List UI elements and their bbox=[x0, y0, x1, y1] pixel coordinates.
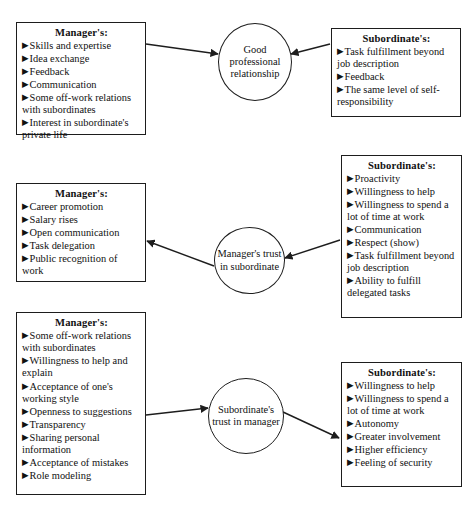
subordinates-trust-in-manager-node: Subordinate's trust in manager bbox=[208, 378, 284, 454]
list-item: ▶Proactivity bbox=[347, 172, 457, 185]
list-item: ▶Open communication bbox=[22, 226, 141, 239]
ellipse-label: Manager's trust in subordinate bbox=[215, 248, 284, 272]
list-item: ▶Ability to fulfill delegated tasks bbox=[347, 274, 457, 299]
list-item-label: Acceptance of mistakes bbox=[30, 457, 129, 468]
box-heading: Subordinate's: bbox=[337, 32, 456, 45]
list-item: ▶Task fulfillment beyond job description bbox=[337, 45, 456, 70]
list-item-label: Idea exchange bbox=[30, 52, 90, 63]
list-item-label: Higher efficiency bbox=[355, 444, 428, 455]
triangle-bullet-icon: ▶ bbox=[22, 92, 29, 102]
triangle-bullet-icon: ▶ bbox=[22, 214, 29, 224]
list-item: ▶The same level of self-responsibility bbox=[337, 83, 456, 108]
list-item: ▶Role modeling bbox=[22, 469, 141, 482]
list-item-label: Task delegation bbox=[30, 239, 95, 250]
list-item-label: Respect (show) bbox=[355, 237, 419, 248]
triangle-bullet-icon: ▶ bbox=[22, 79, 29, 89]
list-item-label: Career promotion bbox=[30, 201, 104, 212]
list-item-label: Task fulfillment beyond job description bbox=[337, 46, 444, 69]
box-heading: Manager's: bbox=[22, 26, 141, 39]
list-item: ▶Feedback bbox=[22, 65, 141, 78]
triangle-bullet-icon: ▶ bbox=[347, 431, 354, 441]
triangle-bullet-icon: ▶ bbox=[347, 173, 354, 183]
list-item: ▶Higher efficiency bbox=[347, 443, 457, 456]
list-item-label: The same level of self-responsibility bbox=[337, 84, 440, 107]
list-item-label: Willingness to help and explain bbox=[22, 355, 128, 378]
list-item: ▶Skills and expertise bbox=[22, 39, 141, 52]
box-item-list: ▶Career promotion ▶Salary rises ▶Open co… bbox=[22, 200, 141, 277]
manager-trust-building-box: Manager's: ▶Some off-work relations with… bbox=[16, 312, 146, 495]
list-item: ▶Willingness to spend a lot of time at w… bbox=[347, 198, 457, 223]
list-item: ▶Feeling of security bbox=[347, 456, 457, 469]
triangle-bullet-icon: ▶ bbox=[22, 406, 29, 416]
list-item-label: Autonomy bbox=[355, 418, 399, 429]
list-item-label: Acceptance of one's working style bbox=[22, 380, 113, 403]
triangle-bullet-icon: ▶ bbox=[347, 199, 354, 209]
list-item: ▶Communication bbox=[22, 78, 141, 91]
triangle-bullet-icon: ▶ bbox=[22, 201, 29, 211]
triangle-bullet-icon: ▶ bbox=[347, 275, 354, 285]
ellipse-label: Subordinate's trust in manager bbox=[209, 404, 283, 428]
list-item-label: Feedback bbox=[30, 65, 70, 76]
triangle-bullet-icon: ▶ bbox=[347, 380, 354, 390]
list-item: ▶Feedback bbox=[337, 70, 456, 83]
good-professional-relationship-node: Good professional relationship bbox=[218, 23, 292, 101]
list-item: ▶Salary rises bbox=[22, 213, 141, 226]
list-item-label: Public recognition of work bbox=[22, 252, 117, 275]
list-item: ▶Some off-work relations with subordinat… bbox=[22, 329, 141, 354]
triangle-bullet-icon: ▶ bbox=[22, 40, 29, 50]
edge-bottom-left-to-ellipse bbox=[146, 408, 208, 415]
edge-top-left-to-ellipse bbox=[146, 44, 218, 54]
box-item-list: ▶Willingness to help ▶Willingness to spe… bbox=[347, 379, 457, 469]
list-item-label: Feedback bbox=[345, 71, 385, 82]
list-item: ▶Greater involvement bbox=[347, 430, 457, 443]
box-heading: Manager's: bbox=[22, 316, 141, 329]
box-heading: Subordinate's: bbox=[347, 366, 457, 379]
list-item-label: Communication bbox=[30, 78, 97, 89]
triangle-bullet-icon: ▶ bbox=[347, 237, 354, 247]
list-item-label: Communication bbox=[355, 224, 422, 235]
list-item-label: Willingness to help bbox=[355, 380, 435, 391]
triangle-bullet-icon: ▶ bbox=[347, 186, 354, 196]
triangle-bullet-icon: ▶ bbox=[22, 355, 29, 365]
subordinate-good-relationship-box: Subordinate's: ▶Task fulfillment beyond … bbox=[331, 28, 461, 117]
list-item-label: Willingness to spend a lot of time at wo… bbox=[347, 392, 449, 415]
triangle-bullet-icon: ▶ bbox=[347, 444, 354, 454]
list-item-label: Proactivity bbox=[355, 173, 401, 184]
triangle-bullet-icon: ▶ bbox=[347, 418, 354, 428]
ellipse-label: Good professional relationship bbox=[219, 44, 291, 81]
triangle-bullet-icon: ▶ bbox=[347, 457, 354, 467]
triangle-bullet-icon: ▶ bbox=[22, 66, 29, 76]
triangle-bullet-icon: ▶ bbox=[22, 457, 29, 467]
list-item-label: Salary rises bbox=[30, 213, 78, 224]
list-item-label: Sharing personal information bbox=[22, 431, 100, 454]
list-item: ▶Willingness to help bbox=[347, 185, 457, 198]
list-item-label: Some off-work relations with subordinate… bbox=[22, 91, 131, 114]
list-item-label: Task fulfillment beyond job description bbox=[347, 249, 454, 272]
triangle-bullet-icon: ▶ bbox=[22, 330, 29, 340]
triangle-bullet-icon: ▶ bbox=[337, 71, 344, 81]
list-item-label: Open communication bbox=[30, 226, 120, 237]
list-item: ▶Some off-work relations with subordinat… bbox=[22, 91, 141, 116]
list-item-label: Willingness to spend a lot of time at wo… bbox=[347, 198, 449, 221]
list-item: ▶Task fulfillment beyond job description bbox=[347, 249, 457, 274]
list-item: ▶Acceptance of one's working style bbox=[22, 380, 141, 405]
list-item: ▶Respect (show) bbox=[347, 236, 457, 249]
triangle-bullet-icon: ▶ bbox=[22, 432, 29, 442]
box-item-list: ▶Skills and expertise ▶Idea exchange ▶Fe… bbox=[22, 39, 141, 141]
list-item: ▶Openness to suggestions bbox=[22, 405, 141, 418]
edge-ellipse-to-bottom-right bbox=[283, 412, 339, 438]
triangle-bullet-icon: ▶ bbox=[22, 227, 29, 237]
triangle-bullet-icon: ▶ bbox=[337, 46, 344, 56]
manager-good-relationship-box: Manager's: ▶Skills and expertise ▶Idea e… bbox=[16, 22, 146, 135]
list-item: ▶Career promotion bbox=[22, 200, 141, 213]
list-item-label: Feeling of security bbox=[355, 456, 433, 467]
triangle-bullet-icon: ▶ bbox=[347, 224, 354, 234]
list-item: ▶Idea exchange bbox=[22, 52, 141, 65]
list-item: ▶Interest in subordinate's private life bbox=[22, 116, 141, 141]
edge-middle-right-to-ellipse bbox=[285, 240, 340, 258]
box-item-list: ▶Some off-work relations with subordinat… bbox=[22, 329, 141, 482]
subordinate-behaviours-box: Subordinate's: ▶Proactivity ▶Willingness… bbox=[341, 155, 462, 318]
list-item: ▶Willingness to spend a lot of time at w… bbox=[347, 392, 457, 417]
list-item: ▶Transparency bbox=[22, 418, 141, 431]
list-item-label: Ability to fulfill delegated tasks bbox=[347, 275, 421, 298]
